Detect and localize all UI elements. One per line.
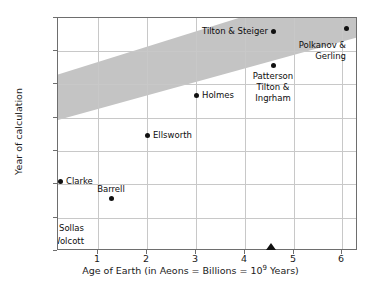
data-label-patterson-line2: Tilton &	[240, 82, 306, 92]
gridline-vertical	[245, 18, 246, 249]
data-label-sollas: Sollas	[59, 223, 84, 233]
x-tick-label-5: 5	[283, 253, 303, 264]
x-tick-label-1: 1	[87, 253, 107, 264]
gridline-vertical	[196, 18, 197, 249]
data-point-holmes[interactable]	[194, 93, 199, 98]
age-of-earth-scatter-chart: Year of calculation 1970 1960 1950 1940 …	[0, 0, 381, 284]
data-point-polkanov-gerling[interactable]	[344, 26, 349, 31]
gridline-horizontal	[58, 151, 356, 152]
data-label-wolcott: Wolcott	[57, 236, 84, 246]
data-label-barrell: Barrell	[88, 184, 134, 194]
data-point-clarke[interactable]	[58, 179, 63, 184]
x-axis-title: Age of Earth (in Aeons = Billions = 109 …	[0, 265, 381, 276]
gridline-horizontal	[58, 218, 356, 219]
data-point-ellsworth[interactable]	[145, 133, 150, 138]
data-label-patterson-line3: Ingrham	[240, 93, 306, 103]
gridline-vertical	[98, 18, 99, 249]
x-tick-label-2: 2	[136, 253, 156, 264]
data-point-barrell[interactable]	[109, 196, 114, 201]
data-label-patterson-line1: Patterson	[240, 71, 306, 81]
x-tick-label-3: 3	[185, 253, 205, 264]
plot-area: Wolcott Sollas Clarke Barrell Ellsworth …	[57, 17, 357, 250]
accepted-age-marker-icon	[266, 243, 276, 250]
data-label-ellsworth: Ellsworth	[153, 130, 192, 140]
data-point-patterson-tilton-ingrham[interactable]	[271, 63, 276, 68]
x-tick-label-4: 4	[234, 253, 254, 264]
data-label-polkanov-line1: Polkanov &	[273, 40, 346, 50]
y-axis-title: Year of calculation	[13, 88, 24, 175]
data-label-holmes: Holmes	[202, 90, 234, 100]
data-point-tilton-steiger[interactable]	[271, 29, 276, 34]
data-label-tilton-steiger: Tilton & Steiger	[188, 26, 268, 36]
gridline-horizontal	[58, 118, 356, 119]
x-tick-label-6: 6	[331, 253, 351, 264]
x-axis-title-after: Years)	[267, 265, 299, 276]
x-axis-title-before: Age of Earth (in Aeons = Billions = 10	[82, 265, 262, 276]
y-tick-mark	[53, 250, 57, 251]
gridline-horizontal	[58, 84, 356, 85]
data-label-polkanov-line2: Gerling	[273, 51, 346, 61]
